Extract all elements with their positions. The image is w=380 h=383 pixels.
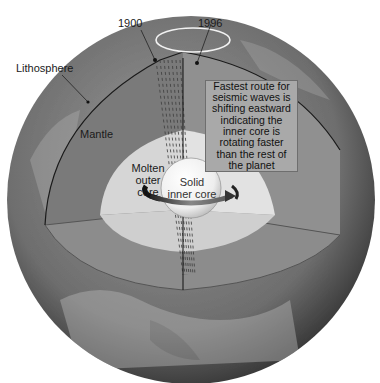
marker-lithosphere xyxy=(86,100,89,103)
label-inner-core: Solid inner core xyxy=(166,176,218,200)
inner-core-line-1: Solid xyxy=(166,176,218,188)
label-mantle: Mantle xyxy=(80,128,113,140)
callout-box: Fastest route for seismic waves is shift… xyxy=(205,80,298,172)
label-1900: 1900 xyxy=(118,17,142,29)
label-outer-core: Molten outer core xyxy=(128,162,168,198)
outer-core-line-2: outer xyxy=(128,174,168,186)
outer-core-line-3: core xyxy=(128,186,168,198)
callout-line-3: shifting eastward xyxy=(212,103,291,114)
marker-1900 xyxy=(153,58,157,62)
label-1996: 1996 xyxy=(198,17,222,29)
label-lithosphere: Lithosphere xyxy=(16,62,74,74)
outer-core-line-1: Molten xyxy=(128,162,168,174)
earth-cutaway-diagram: 1900 1996 Lithosphere Mantle Molten oute… xyxy=(0,0,380,383)
marker-1996 xyxy=(195,61,199,65)
callout-line-6: rotating faster xyxy=(219,137,283,148)
inner-core-line-2: inner core xyxy=(166,188,218,200)
callout-line-8: the planet xyxy=(228,160,274,171)
